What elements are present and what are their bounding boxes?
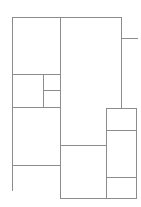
diagram-canvas (0, 0, 141, 207)
partition-diagram (0, 0, 141, 207)
